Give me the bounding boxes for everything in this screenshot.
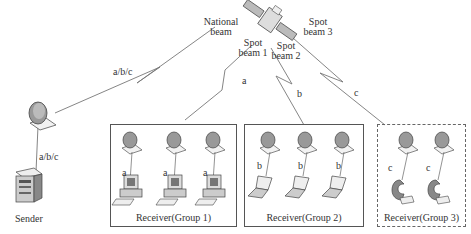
beam-3-channel-label: c <box>354 88 358 98</box>
beam-2-channel-label: b <box>297 89 302 99</box>
sender-label: Sender <box>15 214 43 224</box>
receiver-group-3: Receiver(Group 3) <box>377 124 466 227</box>
receiver-channel-label: b <box>298 161 303 171</box>
receiver-channel-label: a <box>203 168 207 178</box>
spot-beam-3-label: Spotbeam 3 <box>298 17 338 37</box>
receiver-channel-label: c <box>426 163 430 173</box>
uplink-beam <box>55 27 215 113</box>
receiver-channel-label: a <box>163 168 167 178</box>
sender-link <box>36 126 38 172</box>
receiver-group-1: Receiver(Group 1) <box>110 124 237 227</box>
beam-1-channel-label: a <box>242 76 246 86</box>
server-icon <box>16 168 42 202</box>
receiver-group-2: Receiver(Group 2) <box>244 124 364 227</box>
spot-beam-2-label: Spotbeam 2 <box>266 41 306 61</box>
sender-link-label: a/b/c <box>39 152 58 162</box>
receiver-channel-label: a <box>122 168 126 178</box>
satellite-broadcast-diagram: Nationalbeam Spotbeam 1 Spotbeam 2 Spotb… <box>0 0 471 234</box>
receiver-channel-label: b <box>257 161 262 171</box>
group-3-label: Receiver(Group 3) <box>378 212 465 223</box>
national-beam-label: Nationalbeam <box>196 17 246 37</box>
group-1-label: Receiver(Group 1) <box>111 212 236 223</box>
receiver-channel-label: c <box>388 163 392 173</box>
sender-dish-icon <box>29 102 56 130</box>
receiver-channel-label: b <box>336 161 341 171</box>
group-2-label: Receiver(Group 2) <box>245 212 363 223</box>
spot-beam-3 <box>293 38 385 125</box>
uplink-label: a/b/c <box>113 67 132 77</box>
